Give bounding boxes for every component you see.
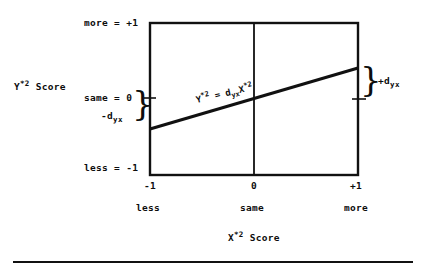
brace-right-label: +dyx bbox=[378, 76, 400, 86]
y-axis-caption-word: Score bbox=[36, 81, 66, 92]
y-axis-caption: Y*2 Score bbox=[14, 82, 66, 92]
x-tick-number-zero: 0 bbox=[251, 181, 257, 191]
x-tick-word-same: same bbox=[240, 203, 264, 213]
y-tick-label-same: same = 0 bbox=[84, 93, 132, 103]
figure-canvas bbox=[0, 0, 426, 271]
x-tick-number-plus-one: +1 bbox=[350, 181, 362, 191]
x-axis-caption-word: Score bbox=[250, 232, 280, 243]
y-tick-label-less: less = -1 bbox=[84, 163, 138, 173]
brace-left-subscript: yx bbox=[113, 115, 123, 124]
x-tick-number-minus-one: -1 bbox=[144, 181, 156, 191]
x-tick-word-less: less bbox=[136, 203, 160, 213]
y-tick-label-more: more = +1 bbox=[84, 18, 138, 28]
brace-left-label: -dyx bbox=[101, 111, 123, 121]
equation-rhs-exponent: *2 bbox=[243, 80, 253, 90]
brace-left-glyph: } bbox=[132, 86, 154, 120]
x-axis-caption: X*2 Score bbox=[228, 233, 280, 243]
brace-right-subscript: yx bbox=[390, 80, 400, 89]
x-tick-word-more: more bbox=[344, 203, 368, 213]
y-axis-exponent: *2 bbox=[20, 79, 30, 88]
x-axis-exponent: *2 bbox=[234, 230, 244, 239]
